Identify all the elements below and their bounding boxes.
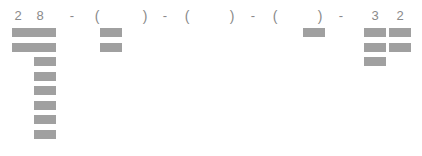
header-token-paren-10: ) [314,8,326,24]
header-token-digit-0: 2 [11,8,25,24]
band-bar [364,57,386,66]
band-bar [364,28,386,37]
header-token-digit-13: 2 [393,8,407,24]
band-bar [34,101,56,110]
band-bar [303,28,325,37]
header-token-digit-1: 8 [33,8,47,24]
header-token-paren-7: ) [226,8,238,24]
header-token-paren-9: ( [269,8,281,24]
band-bar [389,28,411,37]
header-token-paren-4: ) [139,8,151,24]
band-ladder-diagram: 28-()-()-()-32 [0,0,422,156]
band-bar [34,28,56,37]
column-3-right [364,28,386,66]
header-token-dash-5: - [158,8,172,24]
header-token-dash-2: - [65,8,79,24]
column-group-1 [100,28,122,52]
band-bar [34,43,56,52]
band-bar [100,43,122,52]
column-8 [34,28,56,139]
band-bar [389,43,411,52]
band-bar [34,130,56,139]
band-bar [12,28,34,37]
band-bar [34,86,56,95]
column-group-3 [303,28,325,37]
band-bar [34,72,56,81]
header-token-paren-3: ( [91,8,103,24]
column-2-right [389,28,411,52]
header-token-dash-11: - [334,8,348,24]
band-bar [364,43,386,52]
header-token-digit-12: 3 [368,8,382,24]
band-bar [34,115,56,124]
band-bar [34,57,56,66]
header-token-dash-8: - [246,8,260,24]
band-bar [100,28,122,37]
header-token-paren-6: ( [181,8,193,24]
band-bar [12,43,34,52]
column-2-left [12,28,34,52]
